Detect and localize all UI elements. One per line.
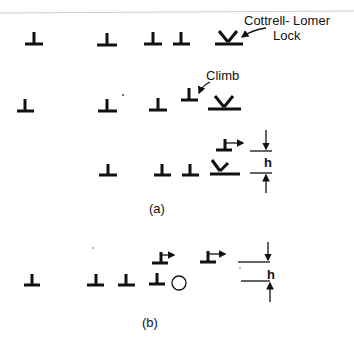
row-1: Cottrell- Lomer Lock: [25, 13, 331, 45]
speck: [92, 247, 94, 249]
speck: [122, 94, 124, 96]
height-label-b: h: [267, 267, 275, 282]
climbed-dislocation-icon: [216, 139, 232, 150]
edge-dislocation-icon: [173, 32, 190, 44]
edge-dislocation-icon: [144, 32, 162, 44]
edge-dislocation-icon: [87, 274, 104, 285]
lock-label: Lock: [273, 28, 301, 43]
caption-a: (a): [149, 201, 165, 216]
edge-dislocation-icon: [149, 98, 167, 110]
edge-dislocation-icon: [98, 99, 117, 111]
dislocation-climb-diagram: Cottrell- Lomer Lock Climb: [0, 0, 354, 337]
panel-a: Cottrell- Lomer Lock Climb: [17, 13, 331, 216]
edge-dislocation-icon: [24, 274, 40, 285]
row-2: Climb: [17, 68, 241, 111]
vacancy-icon: [172, 276, 186, 290]
edge-dislocation-icon: [97, 33, 117, 45]
height-label-a: h: [264, 155, 272, 170]
row-3: h: [99, 130, 272, 193]
cottrell-lomer-lock-icon: [215, 31, 243, 44]
speck: [239, 267, 241, 269]
partial-lock-icon: [210, 160, 240, 174]
climbed-dislocation-icon: [181, 88, 198, 100]
edge-dislocation-icon: [17, 99, 34, 111]
climbed-dislocation-icon: [200, 251, 216, 262]
height-dimension-a: h: [250, 130, 272, 193]
edge-dislocation-icon: [154, 164, 171, 175]
climb-arrow-icon: [199, 82, 210, 93]
edge-dislocation-icon: [182, 164, 199, 175]
height-dimension-b: h: [238, 242, 275, 302]
climbed-dislocation-icon: [152, 252, 168, 263]
caption-b: (b): [142, 315, 158, 330]
cottrell-lomer-arrow-icon: [242, 28, 266, 37]
panel-b: h (b): [24, 242, 275, 330]
edge-dislocation-icon: [99, 164, 117, 175]
edge-dislocation-icon: [149, 273, 165, 284]
cottrell-lomer-lock-icon: [208, 96, 241, 109]
edge-dislocation-icon: [118, 274, 135, 285]
cottrell-lomer-label: Cottrell- Lomer: [244, 13, 331, 28]
climb-label: Climb: [206, 68, 239, 83]
edge-dislocation-icon: [25, 32, 43, 44]
